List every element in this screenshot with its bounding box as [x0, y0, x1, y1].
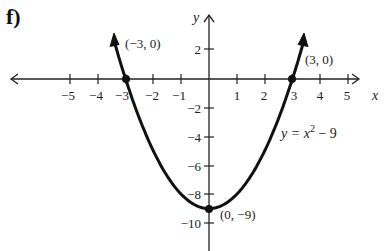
svg-text:−6: −6: [187, 159, 201, 174]
svg-text:−4: −4: [89, 88, 103, 103]
equation-label: y = x2 − 9: [279, 123, 337, 141]
svg-text:4: 4: [317, 88, 324, 103]
svg-text:−4: −4: [187, 130, 201, 145]
svg-text:−5: −5: [61, 88, 75, 103]
point-right-intercept: [288, 75, 296, 83]
svg-text:2: 2: [195, 42, 202, 57]
x-tick-labels: −5 −4 −3 −2 −1 1 2 3 4 5: [61, 88, 350, 103]
x-axis-label: x: [371, 88, 379, 103]
annotation-right-intercept: (3, 0): [305, 52, 333, 67]
svg-text:−10: −10: [181, 216, 201, 231]
svg-text:−2: −2: [145, 88, 159, 103]
parabola-chart: −5 −4 −3 −2 −1 1 2 3 4 5 x y 2 −2 −4 −6 …: [0, 0, 384, 251]
svg-text:−2: −2: [187, 101, 201, 116]
svg-text:−3: −3: [115, 88, 129, 103]
annotation-left-intercept: (−3, 0): [125, 36, 161, 51]
curve-left-arrow-icon: [110, 33, 119, 47]
annotation-vertex: (0, −9): [220, 207, 256, 222]
curve-right-arrow-icon: [298, 33, 308, 47]
svg-text:1: 1: [234, 88, 241, 103]
svg-text:3: 3: [291, 88, 298, 103]
svg-text:2: 2: [261, 88, 268, 103]
y-axis-label: y: [191, 10, 200, 25]
svg-text:−1: −1: [172, 88, 186, 103]
svg-text:5: 5: [344, 88, 351, 103]
point-left-intercept: [122, 75, 130, 83]
point-vertex: [205, 205, 213, 213]
